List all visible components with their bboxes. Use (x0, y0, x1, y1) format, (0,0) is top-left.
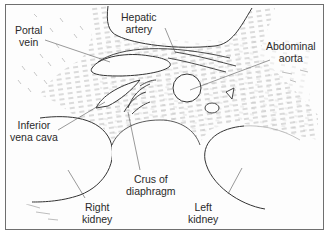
label-portal-vein: Portal vein (15, 24, 42, 48)
node-shape (205, 103, 219, 113)
label-left-kidney: Left kidney (188, 201, 218, 225)
label-abdominal-aorta: Abdominal aorta (266, 40, 316, 64)
label-crus-of-diaphragm: Crus of diaphragm (126, 173, 176, 197)
anatomy-drawing (0, 0, 329, 234)
aorta-shape (173, 74, 201, 102)
label-inferior-vena-cava: Inferior vena cava (10, 119, 58, 143)
label-hepatic-artery: Hepatic artery (121, 11, 157, 35)
label-right-kidney: Right kidney (82, 201, 112, 225)
